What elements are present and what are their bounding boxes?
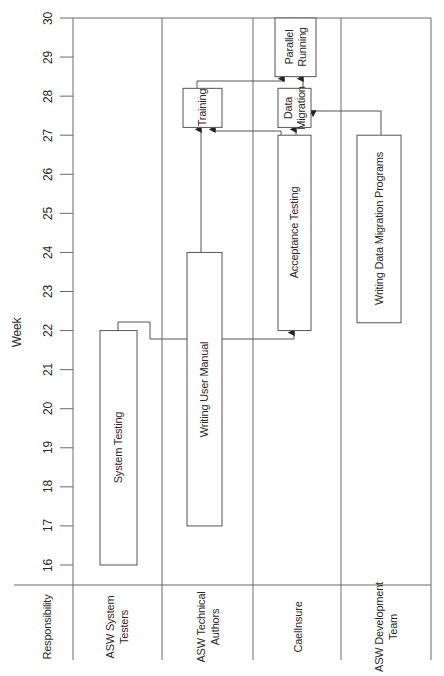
- gantt-diagram: [0, 0, 444, 676]
- task-label-parallel-running: ParallelRunning: [282, 28, 308, 68]
- task-label-parallel-running-line: Running: [295, 28, 308, 68]
- lane-label-1-line: Authors: [208, 591, 222, 662]
- tick-label-18: 18: [41, 480, 54, 493]
- lane-label-0-line: Testers: [117, 595, 131, 658]
- tick-label-20-line: 20: [41, 402, 54, 415]
- task-boxes: [100, 18, 401, 565]
- y-axis-title-line: Week: [11, 317, 24, 347]
- tick-label-19: 19: [41, 441, 54, 454]
- responsibility-header: Responsibility: [39, 594, 53, 659]
- task-label-system-testing: System Testing: [112, 412, 125, 484]
- tick-label-29-line: 29: [41, 51, 54, 64]
- lane-label-0-line: ASW System: [103, 595, 117, 658]
- tick-label-19-line: 19: [41, 441, 54, 454]
- lane-label-3-line: ASW Development: [372, 582, 386, 672]
- arrow-training-to-parallel-running: [197, 79, 284, 89]
- tick-label-20: 20: [41, 402, 54, 415]
- tick-label-27-line: 27: [41, 129, 54, 142]
- tick-label-22-line: 22: [41, 324, 54, 337]
- lane-label-3: ASW DevelopmentTeam: [372, 582, 400, 672]
- tick-label-17-line: 17: [41, 519, 54, 532]
- tick-label-18-line: 18: [41, 480, 54, 493]
- task-label-data-migration: DataMigration: [282, 86, 308, 129]
- task-label-data-migration-line: Data: [282, 86, 295, 129]
- task-label-acceptance-testing: Acceptance Testing: [288, 187, 301, 279]
- lane-label-2: CaelInsure: [290, 601, 304, 652]
- task-label-parallel-running-line: Parallel: [282, 28, 295, 68]
- tick-label-29: 29: [41, 51, 54, 64]
- tick-label-16: 16: [41, 559, 54, 572]
- dependency-arrows: [118, 79, 381, 339]
- lane-label-0: ASW SystemTesters: [103, 595, 131, 658]
- task-label-writing-user-manual-line: Writing User Manual: [198, 341, 211, 437]
- lane-label-1: ASW TechnicalAuthors: [194, 591, 222, 662]
- tick-label-25: 25: [41, 207, 54, 220]
- task-label-data-migration-line: Migration: [295, 86, 308, 129]
- task-label-writing-data-migration-programs-line: Writing Data Migration Programs: [373, 152, 386, 305]
- tick-label-23: 23: [41, 285, 54, 298]
- arrow-writing-data-migration-programs-to-data-migration: [313, 111, 381, 135]
- tick-label-27: 27: [41, 129, 54, 142]
- tick-label-26: 26: [41, 168, 54, 181]
- tick-label-30: 30: [41, 12, 54, 25]
- tick-label-25-line: 25: [41, 207, 54, 220]
- task-label-acceptance-testing-line: Acceptance Testing: [288, 187, 301, 279]
- lane-label-2-line: CaelInsure: [290, 601, 304, 652]
- task-label-training: Training: [196, 89, 209, 127]
- tick-label-22: 22: [41, 324, 54, 337]
- tick-label-30-line: 30: [41, 12, 54, 25]
- tick-label-28: 28: [41, 90, 54, 103]
- y-axis-title: Week: [11, 317, 24, 347]
- tick-label-21-line: 21: [41, 363, 54, 376]
- tick-label-23-line: 23: [41, 285, 54, 298]
- lane-label-1-line: ASW Technical: [194, 591, 208, 662]
- tick-label-24-line: 24: [41, 246, 54, 259]
- tick-label-26-line: 26: [41, 168, 54, 181]
- tick-label-24: 24: [41, 246, 54, 259]
- task-label-system-testing-line: System Testing: [112, 412, 125, 484]
- tick-label-28-line: 28: [41, 90, 54, 103]
- lane-label-3-line: Team: [386, 582, 400, 672]
- tick-label-16-line: 16: [41, 559, 54, 572]
- tick-label-21: 21: [41, 363, 54, 376]
- arrow-acceptance-testing-to-training: [215, 129, 281, 135]
- task-label-training-line: Training: [196, 89, 209, 127]
- task-label-writing-user-manual: Writing User Manual: [198, 341, 211, 437]
- responsibility-header-line: Responsibility: [39, 594, 53, 659]
- tick-label-17: 17: [41, 519, 54, 532]
- task-label-writing-data-migration-programs: Writing Data Migration Programs: [373, 152, 386, 305]
